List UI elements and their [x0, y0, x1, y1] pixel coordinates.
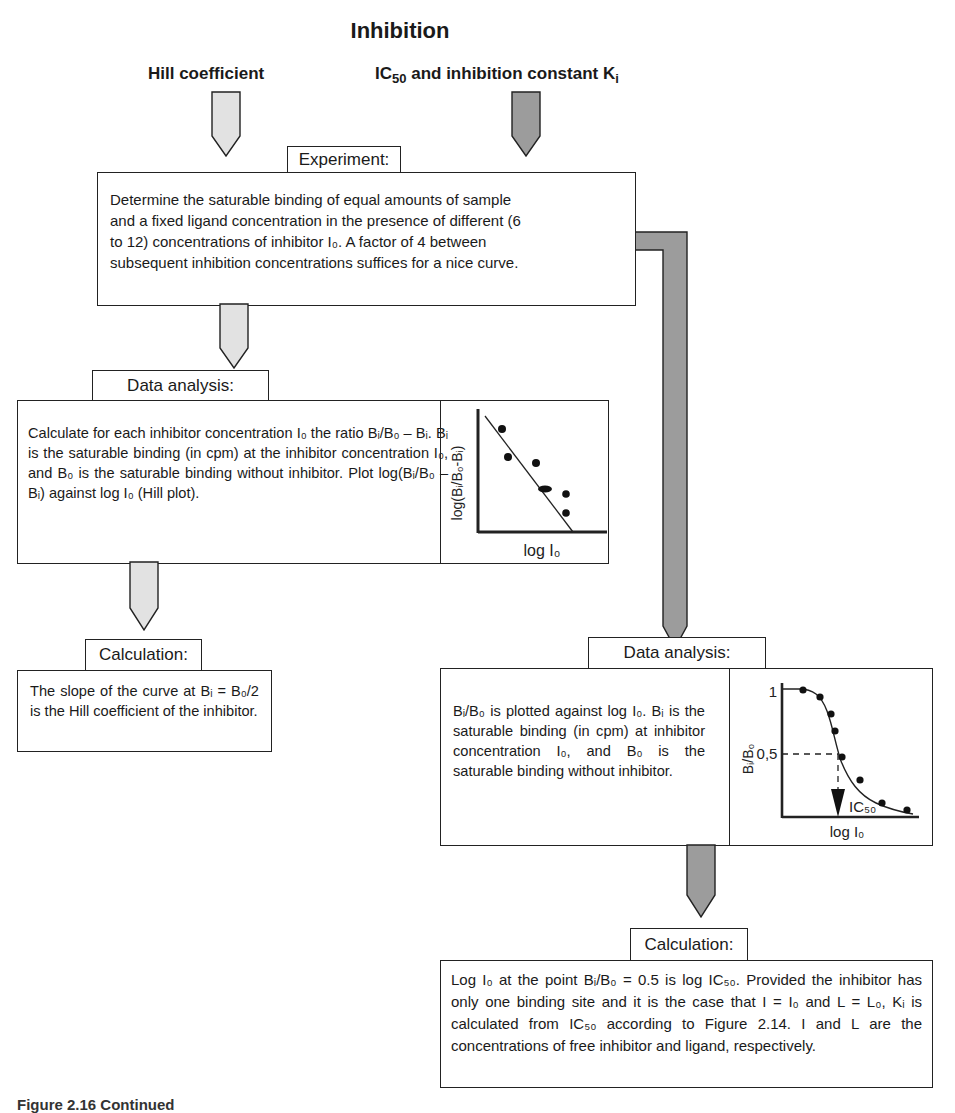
hill-analysis-heading: Data analysis:: [92, 370, 269, 401]
hill-calculation-heading: Calculation:: [85, 639, 202, 671]
ic50-plot: Bᵢ/B₀ 1 0,5 IC₅₀ log I₀: [731, 669, 931, 845]
figure-caption: Figure 2.16 Continued: [17, 1096, 175, 1113]
branch-hill-coefficient: Hill coefficient: [148, 64, 264, 84]
experiment-box: Determine the saturable binding of equal…: [97, 172, 636, 306]
hill-plot: log(Bᵢ/B₀-Bᵢ) log I₀: [442, 401, 608, 563]
elbow-connector-arrow-icon: [630, 228, 694, 656]
experiment-text-line: subsequent inhibition concentrations suf…: [110, 252, 623, 273]
diagram-title: Inhibition: [0, 18, 800, 44]
ic50-analysis-text: Bᵢ/B₀ is plotted against log I₀. Bᵢ is t…: [441, 701, 713, 781]
ic50-calculation-box: Log I₀ at the point Bᵢ/B₀ = 0.5 is log I…: [440, 960, 933, 1088]
hill-analysis-box: Calculate for each inhibitor concentrati…: [17, 400, 609, 564]
branch-ic50-ki: IC50 and inhibition constant Ki: [375, 64, 619, 86]
ic50-plot-ylabel: Bᵢ/B₀: [740, 744, 756, 775]
hill-calculation-box: The slope of the curve at Bᵢ = B₀/2 is t…: [17, 670, 272, 752]
hill-analysis-text: Calculate for each inhibitor concentrati…: [18, 423, 458, 503]
down-arrow-light-icon: [210, 90, 244, 160]
experiment-text-line: and a fixed ligand concentration in the …: [110, 210, 623, 231]
ic50-plot-xlabel: log I₀: [830, 823, 865, 840]
down-arrow-light-icon: [128, 562, 162, 634]
hill-calculation-text: The slope of the curve at Bᵢ = B₀/2 is t…: [18, 681, 271, 721]
ic50-analysis-box: Bᵢ/B₀ is plotted against log I₀. Bᵢ is t…: [440, 668, 933, 846]
down-arrow-dark-icon: [510, 90, 544, 160]
experiment-heading: Experiment:: [287, 146, 401, 174]
box-divider: [440, 401, 441, 563]
experiment-text-line: to 12) concentrations of inhibitor I₀. A…: [110, 231, 623, 252]
box-divider: [729, 669, 730, 845]
hill-plot-xlabel: log I₀: [524, 542, 561, 559]
down-arrow-light-icon: [218, 304, 252, 372]
hill-plot-ylabel: log(Bᵢ/B₀-Bᵢ): [449, 446, 465, 521]
ic50-calculation-text: Log I₀ at the point Bᵢ/B₀ = 0.5 is log I…: [441, 969, 932, 1057]
ic50-calculation-heading: Calculation:: [630, 928, 748, 961]
svg-text:0,5: 0,5: [757, 745, 778, 762]
down-arrow-dark-icon: [685, 845, 719, 921]
ic50-analysis-heading: Data analysis:: [588, 637, 766, 669]
experiment-text-line: Determine the saturable binding of equal…: [110, 189, 623, 210]
ic50-marker-label: IC₅₀: [849, 798, 876, 815]
svg-text:1: 1: [769, 683, 777, 700]
